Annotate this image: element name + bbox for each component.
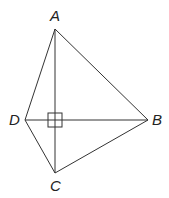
label-a: A bbox=[49, 7, 60, 24]
segment-cd bbox=[25, 120, 55, 173]
label-c: C bbox=[50, 177, 61, 194]
quadrilateral-diagram: A B C D bbox=[0, 0, 169, 198]
label-d: D bbox=[9, 111, 20, 128]
segment-ab bbox=[55, 29, 148, 120]
segment-bc bbox=[55, 120, 148, 173]
label-b: B bbox=[152, 111, 162, 128]
segment-da bbox=[25, 29, 55, 120]
